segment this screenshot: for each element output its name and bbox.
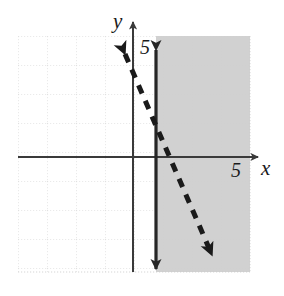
y-axis-label: y	[111, 9, 123, 33]
coordinate-plane-svg: y x 5 5	[0, 0, 284, 296]
graph-figure: y x 5 5	[0, 0, 284, 296]
x-tick-label-5: 5	[231, 159, 241, 181]
y-tick-label-5: 5	[140, 36, 150, 58]
x-axis-label: x	[260, 156, 271, 180]
